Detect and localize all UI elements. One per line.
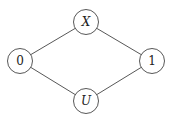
node-U-label: U: [81, 94, 92, 108]
edge-U-1: [97, 67, 142, 95]
edges: [31, 28, 142, 95]
edge-X-1: [97, 28, 142, 55]
node-0-label: 0: [16, 54, 24, 68]
node-X: X: [74, 10, 99, 35]
node-X-label: X: [81, 15, 91, 29]
node-1-label: 1: [148, 54, 156, 68]
node-0: 0: [8, 49, 33, 74]
edge-0-U: [31, 67, 76, 95]
edge-0-X: [31, 28, 76, 55]
node-1: 1: [140, 49, 165, 74]
lattice-diagram: X 0 1 U: [0, 0, 174, 122]
node-U: U: [74, 89, 99, 114]
